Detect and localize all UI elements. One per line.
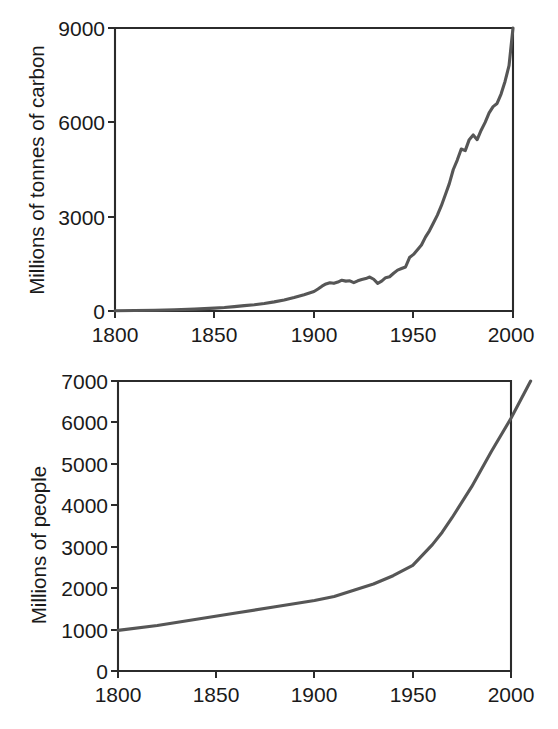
population-y-tick-label-2000: 2000 — [61, 577, 108, 600]
carbon-y-tick-label-3000: 3000 — [58, 206, 105, 229]
carbon-x-tick-label-1800: 1800 — [92, 323, 139, 346]
carbon-x-tick-label-1850: 1850 — [191, 323, 238, 346]
chart-carbon-emissions: Millions of tonnes of carbon 9000 6000 3… — [0, 0, 558, 360]
carbon-y-tick-label-0: 0 — [93, 300, 105, 323]
population-y-tick-label-5000: 5000 — [61, 453, 108, 476]
population-x-tick-label-1850: 1850 — [193, 683, 240, 706]
carbon-x-tick-label-1900: 1900 — [291, 323, 338, 346]
population-y-tick-label-1000: 1000 — [61, 619, 108, 642]
chart-world-population: Millions of people 7000 6000 5000 4000 3… — [0, 360, 558, 729]
carbon-y-tick-label-9000: 9000 — [58, 17, 105, 40]
population-y-tick-label-6000: 6000 — [61, 411, 108, 434]
carbon-y-tick-label-6000: 6000 — [58, 111, 105, 134]
population-chart-svg: Millions of people 7000 6000 5000 4000 3… — [0, 360, 558, 729]
population-y-tick-label-7000: 7000 — [61, 370, 108, 393]
world-population-line — [118, 381, 531, 630]
population-x-tick-label-1950: 1950 — [390, 683, 437, 706]
population-y-axis-title: Millions of people — [27, 466, 50, 624]
carbon-emissions-line — [115, 28, 513, 311]
population-x-tick-label-1800: 1800 — [95, 683, 142, 706]
two-panel-figure: Millions of tonnes of carbon 9000 6000 3… — [0, 0, 558, 729]
carbon-y-axis-title: Millions of tonnes of carbon — [25, 45, 48, 295]
population-plot-frame — [118, 381, 511, 671]
population-y-tick-label-4000: 4000 — [61, 494, 108, 517]
population-x-tick-label-1900: 1900 — [291, 683, 338, 706]
carbon-chart-svg: Millions of tonnes of carbon 9000 6000 3… — [0, 0, 558, 360]
population-y-tick-label-3000: 3000 — [61, 536, 108, 559]
carbon-x-tick-label-1950: 1950 — [390, 323, 437, 346]
population-y-tick-label-0: 0 — [96, 660, 108, 683]
carbon-x-tick-label-2000: 2000 — [488, 323, 535, 346]
population-x-tick-label-2000: 2000 — [488, 683, 535, 706]
